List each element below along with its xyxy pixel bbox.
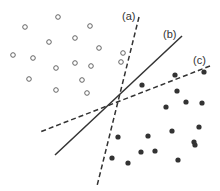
linear-separator-diagram: (a)(b)(c): [0, 0, 220, 191]
hollow-point: [11, 53, 16, 58]
hollow-point: [121, 51, 126, 56]
filled-point: [145, 133, 150, 138]
label-a: (a): [122, 10, 135, 22]
hollow-point: [85, 91, 90, 96]
filled-point: [163, 104, 168, 109]
class-1-hollow-points: [11, 15, 126, 96]
hollow-point: [89, 64, 94, 69]
hollow-point: [31, 56, 36, 61]
hollow-point: [80, 78, 85, 83]
hollow-point: [88, 24, 93, 29]
line-labels: (a)(b)(c): [122, 10, 206, 66]
hollow-point: [27, 77, 32, 82]
hollow-point: [23, 25, 28, 30]
filled-point: [125, 160, 130, 165]
diagram-canvas: (a)(b)(c): [0, 0, 220, 191]
filled-point: [174, 88, 179, 93]
filled-point: [192, 142, 197, 147]
hollow-point: [56, 15, 61, 20]
filled-point: [201, 69, 206, 74]
label-c: (c): [193, 54, 206, 66]
filled-point: [109, 155, 114, 160]
hollow-point: [97, 46, 102, 51]
filled-point: [139, 82, 144, 87]
hollow-point: [73, 61, 78, 66]
hollow-point: [54, 66, 59, 71]
hollow-point: [73, 36, 78, 41]
hollow-point: [47, 40, 52, 45]
filled-point: [115, 134, 120, 139]
filled-point: [152, 148, 157, 153]
filled-point: [199, 100, 204, 105]
filled-point: [138, 149, 143, 154]
hollow-point: [54, 88, 59, 93]
filled-point: [196, 124, 201, 129]
label-b: (b): [163, 28, 176, 40]
filled-point: [183, 99, 188, 104]
class-2-filled-points: [109, 69, 206, 165]
filled-point: [169, 128, 174, 133]
hollow-point: [119, 60, 124, 65]
filled-point: [175, 157, 180, 162]
filled-point: [172, 72, 177, 77]
